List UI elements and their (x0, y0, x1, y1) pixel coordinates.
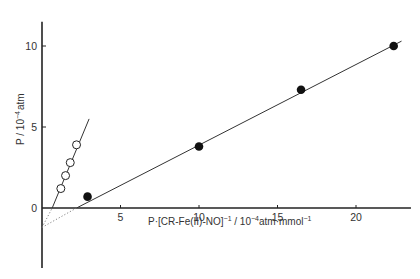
x-label-main: P·[CR-Fe(II)-NO] (148, 216, 224, 227)
y-axis-label: P / 10−4atm (14, 93, 26, 145)
tick-labels: 51015200510 (25, 40, 362, 223)
filled-circles-extrapolation-line (42, 208, 77, 227)
open-circle-point (73, 141, 81, 149)
y-label-main: P / 10 (15, 119, 26, 145)
x-label-sup1: −1 (224, 215, 232, 222)
x-label-sup2: −4 (251, 215, 259, 222)
x-axis-label: P·[CR-Fe(II)-NO]−1 / 10−4atm·mmol−1 (148, 215, 312, 227)
filled-circle-point (389, 42, 398, 51)
filled-circle-point (83, 192, 92, 201)
open-circle-point (57, 185, 65, 193)
data-points (57, 42, 398, 201)
x-label-mid: / 10 (232, 216, 252, 227)
x-label-sup3: −1 (303, 215, 311, 222)
open-circles-extrapolation-line (42, 208, 52, 227)
axes (42, 22, 411, 268)
filled-circle-point (297, 85, 306, 94)
x-label-unit: atm·mmol (259, 216, 303, 227)
y-label-unit: atm (15, 93, 26, 110)
open-circle-point (66, 159, 74, 167)
filled-circles-fit-line (77, 41, 402, 208)
y-label-sup: −4 (14, 111, 21, 119)
y-tick-label: 0 (31, 202, 37, 214)
x-tick-label: 5 (118, 211, 124, 223)
y-tick-label: 5 (31, 121, 37, 133)
filled-circle-point (195, 142, 204, 151)
open-circle-point (62, 172, 70, 180)
chart: 51015200510 P·[CR-Fe(II)-NO]−1 / 10−4atm… (0, 0, 420, 279)
fit-lines (42, 41, 402, 227)
x-tick-label: 20 (350, 211, 362, 223)
ticks (42, 46, 356, 208)
y-tick-label: 10 (25, 40, 37, 52)
